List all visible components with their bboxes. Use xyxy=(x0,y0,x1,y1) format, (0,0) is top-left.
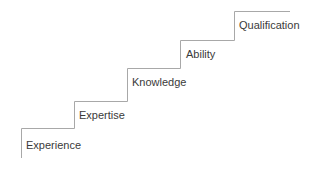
step-label-expertise: Expertise xyxy=(79,109,125,121)
step-label-experience: Experience xyxy=(26,139,81,151)
step-label-knowledge: Knowledge xyxy=(132,76,186,88)
step-label-ability: Ability xyxy=(186,48,215,60)
step-label-qualification: Qualification xyxy=(239,19,300,31)
